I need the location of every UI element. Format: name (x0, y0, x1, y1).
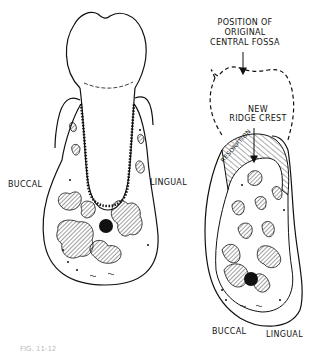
label-buccal-left: BUCCAL (8, 180, 42, 189)
original-crown-outline (211, 67, 293, 140)
label-lingual-left: LINGUAL (150, 178, 187, 187)
label-position-of: POSITION OF (210, 18, 280, 27)
mandibular-canal-right (244, 272, 258, 286)
left-tooth-with-bone (43, 12, 158, 285)
label-ridge-crest: RIDGE CREST (222, 114, 294, 123)
label-new: NEW (228, 105, 288, 114)
gingiva-buccal (55, 98, 80, 148)
label-original: ORIGINAL (210, 28, 280, 37)
label-lingual-right: LINGUAL (266, 330, 303, 339)
label-central-fossa: CENTRAL FOSSA (200, 38, 290, 47)
mandibular-canal (99, 219, 113, 233)
tooth-crown (66, 12, 146, 88)
right-ridge-with-bone (205, 52, 302, 326)
figure-caption: FIG. 11-12 (20, 345, 56, 353)
dental-diagram (0, 0, 320, 353)
label-buccal-right: BUCCAL (212, 327, 246, 336)
